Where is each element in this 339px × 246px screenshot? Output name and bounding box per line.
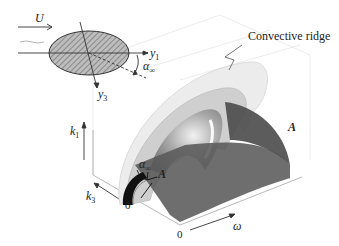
axis-label-k1: k1	[70, 125, 79, 140]
axis-label-omega: ω	[233, 220, 241, 232]
alpha-label: α∞	[139, 158, 151, 173]
k3-axis	[94, 183, 119, 199]
flow-arrow	[18, 24, 52, 43]
origin-label-omega: 0	[177, 229, 183, 240]
axis-label-y3: y3	[98, 88, 107, 103]
k1-axis	[82, 122, 86, 160]
omega-axis	[190, 214, 235, 230]
convective-ridge-figure: U y1 y3 α∞ Convective ridge k1 k3 ω 0 0 …	[0, 0, 339, 246]
convective-ridge-annotation: Convective ridge	[248, 30, 330, 42]
plane-label-a-right: A	[288, 121, 296, 133]
flow-label-u: U	[35, 12, 44, 24]
axis-label-k3: k3	[86, 190, 95, 205]
inset-angle-label: α∞	[143, 60, 155, 75]
plane-label-a-front: A	[158, 168, 166, 180]
origin-label-k3: 0	[125, 200, 131, 211]
